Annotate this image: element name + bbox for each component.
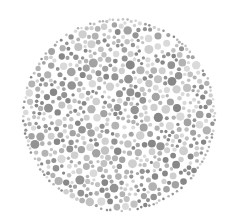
plate-dot [112,19,115,22]
plate-dot [163,135,167,139]
plate-dot [82,141,86,145]
plate-dot [146,198,150,202]
plate-dot [203,126,211,134]
plate-dot [95,204,98,207]
plate-dot [121,63,125,67]
plate-dot [112,22,117,27]
plate-dot [76,168,82,174]
plate-dot [84,155,90,161]
plate-dot [92,98,100,106]
plate-dot [172,115,176,119]
plate-dot [69,117,73,121]
plate-dot [103,90,106,93]
plate-dot [22,115,25,118]
plate-dot [191,89,194,92]
plate-dot [84,115,90,121]
plate-dot [105,155,111,161]
plate-dot [130,106,139,115]
plate-dot [71,93,74,96]
plate-dot [79,106,83,110]
plate-dot [177,67,181,71]
plate-dot [152,93,160,101]
plate-dot [80,72,86,78]
plate-dot [110,108,113,111]
plate-dot [75,139,79,143]
plate-dot [23,101,26,104]
plate-dot [30,76,33,79]
plate-dot [93,114,101,122]
plate-dot [51,158,56,163]
plate-dot [95,91,98,94]
plate-dot [89,192,93,196]
plate-dot [122,203,129,210]
plate-dot [55,119,62,126]
plate-dot [122,87,126,91]
plate-dot [100,155,104,159]
plate-dot [184,45,187,48]
plate-dot [32,115,36,119]
plate-dot [126,88,134,96]
plate-dot [160,130,163,133]
plate-dot [58,102,65,109]
plate-dot [38,112,42,116]
plate-dot [27,122,32,127]
plate-dot [63,124,67,128]
plate-dot [133,139,136,142]
plate-dot [83,45,86,48]
plate-dot [117,98,122,103]
plate-dot [212,130,215,133]
plate-dot [114,196,118,200]
plate-dot [197,101,200,104]
plate-dot [142,163,146,167]
plate-dot [40,162,43,165]
plate-dot [86,97,90,101]
plate-dot [214,112,217,115]
plate-dot [134,76,138,80]
plate-dot [67,156,70,159]
plate-dot [95,26,101,32]
plate-dot [32,111,35,114]
plate-dot [138,21,142,25]
plate-dot [46,160,51,165]
plate-dot [117,19,120,22]
plate-dot [139,112,144,117]
plate-dot [65,56,69,60]
plate-dot [65,34,68,37]
plate-dot [84,59,89,64]
plate-dot [145,70,149,74]
plate-dot [103,81,106,84]
plate-dot [175,44,179,48]
plate-dot [22,106,25,109]
plate-dot [111,122,119,130]
plate-dot [136,131,145,140]
plate-dot [66,114,70,118]
plate-dot [196,89,199,92]
plate-dot [97,166,103,172]
plate-dot [42,112,45,115]
plate-dot [41,90,45,94]
plate-dot [186,93,190,97]
plate-dot [136,208,139,211]
plate-dot [31,125,36,130]
plate-dot [90,169,98,177]
plate-dot [63,77,66,80]
plate-dot [184,119,192,127]
plate-dot [137,189,140,192]
plate-dot [92,178,95,181]
plate-dot [57,155,65,163]
plate-dot [140,87,145,92]
plate-dot [144,23,147,26]
plate-dot [77,27,80,30]
plate-dot [151,62,155,66]
plate-dot [134,20,137,23]
plate-dot [190,130,196,136]
plate-dot [94,126,99,131]
plate-dot [117,164,122,169]
plate-dot [57,72,62,77]
plate-dot [160,50,164,54]
plate-dot [148,74,153,79]
plate-dot [206,150,209,153]
plate-dot [69,52,73,56]
plate-dot [139,158,143,162]
plate-dot [56,67,60,71]
